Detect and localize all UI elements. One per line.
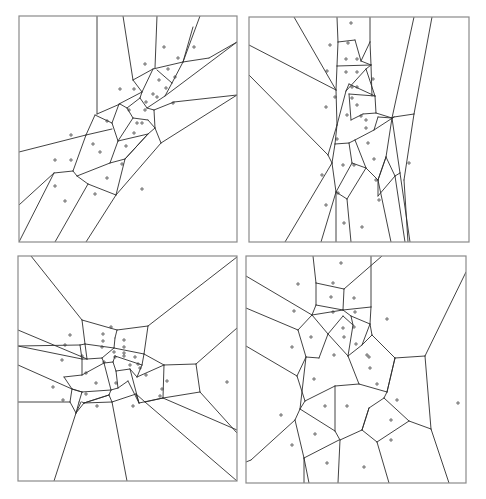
seed-plus-icon [355, 57, 359, 61]
seed-plus-icon [166, 67, 170, 71]
voronoi-edge [414, 17, 432, 114]
voronoi-edge [123, 16, 133, 80]
voronoi-edge [111, 388, 118, 390]
voronoi-edge [332, 163, 336, 192]
seed-plus-icon [128, 363, 132, 367]
seed-plus-icon [132, 131, 136, 135]
voronoi-edge [120, 104, 127, 108]
seed-plus-icon [124, 144, 128, 148]
seed-plus-icon [296, 282, 300, 286]
seed-plus-icon [69, 133, 73, 137]
voronoi-edges [249, 17, 432, 242]
seed-plus-icon [173, 75, 177, 79]
voronoi-edge [351, 316, 370, 324]
voronoi-edge [118, 134, 148, 141]
seed-plus-icon [136, 362, 140, 366]
voronoi-edge [312, 305, 316, 315]
voronoi-edge [359, 384, 387, 392]
seed-plus-icon [325, 461, 329, 465]
voronoi-edge [394, 114, 414, 117]
voronoi-edge [363, 113, 376, 114]
seed-plus-icon [364, 126, 368, 130]
seed-plus-icon [290, 443, 294, 447]
voronoi-edge [392, 118, 400, 173]
seed-plus-icon [140, 187, 144, 191]
voronoi-edge [337, 91, 346, 125]
seed-plus-icon [143, 62, 147, 66]
voronoi-edge [348, 345, 362, 356]
seed-plus-icon [389, 438, 393, 442]
voronoi-edge [72, 389, 82, 392]
seed-plus-icon [95, 404, 99, 408]
voronoi-edge [86, 115, 95, 135]
voronoi-edge [163, 398, 237, 430]
voronoi-edge [395, 173, 400, 176]
voronoi-edge [148, 120, 155, 128]
seed-plus-icon [122, 345, 126, 349]
voronoi-edge [64, 375, 82, 377]
voronoi-edge [148, 128, 155, 134]
voronoi-edge [172, 62, 183, 83]
voronoi-edge [378, 180, 391, 242]
voronoi-edge [154, 110, 155, 128]
voronoi-edge [295, 409, 300, 420]
voronoi-edge [142, 354, 144, 365]
voronoi-edge [55, 184, 88, 242]
voronoi-edge [370, 324, 372, 335]
voronoi-edge [164, 364, 196, 365]
voronoi-edge [300, 409, 335, 431]
seed-plus-icon [91, 142, 95, 146]
voronoi-edge [377, 421, 409, 442]
voronoi-panel-bottom-right [246, 256, 466, 483]
voronoi-edge [19, 173, 54, 205]
seed-plus-icon [313, 432, 317, 436]
voronoi-edge [366, 69, 375, 96]
voronoi-edge [77, 176, 88, 184]
seed-plus-icon [63, 343, 67, 347]
voronoi-edge [404, 180, 408, 242]
voronoi-edge [316, 305, 343, 310]
seed-plus-icon [366, 141, 370, 145]
voronoi-edge [115, 330, 117, 338]
voronoi-edge [409, 421, 431, 429]
voronoi-edge [304, 458, 309, 483]
voronoi-edge [377, 442, 389, 483]
voronoi-edge [362, 408, 369, 430]
voronoi-edge [386, 118, 392, 157]
seed-plus-icon [360, 225, 364, 229]
seed-plus-icon [94, 381, 98, 385]
voronoi-edge [312, 315, 328, 334]
voronoi-edge [112, 123, 118, 141]
voronoi-edges [246, 256, 466, 483]
voronoi-edge [18, 345, 80, 346]
seed-plus-icon [346, 41, 350, 45]
voronoi-edge [196, 364, 200, 392]
voronoi-edge [125, 134, 148, 159]
voronoi-edge [116, 371, 118, 388]
voronoi-edge [370, 307, 371, 324]
seed-points [279, 261, 460, 469]
seed-plus-icon [135, 121, 139, 125]
seed-plus-icon [176, 56, 180, 60]
panel-frame [249, 17, 469, 242]
voronoi-edge [336, 163, 352, 192]
voronoi-edge [305, 386, 335, 401]
voronoi-edge [328, 316, 343, 334]
voronoi-edge [85, 344, 114, 348]
seed-plus-icon [324, 203, 328, 207]
voronoi-edges [18, 256, 237, 481]
voronoi-edge [183, 58, 209, 62]
voronoi-edge [133, 118, 148, 120]
seed-plus-icon [165, 379, 169, 383]
voronoi-edge [338, 440, 340, 483]
voronoi-edge [148, 257, 237, 326]
seed-plus-icon [151, 92, 155, 96]
voronoi-edge [361, 42, 370, 61]
voronoi-edge [183, 27, 193, 62]
seed-plus-icon [372, 157, 376, 161]
voronoi-edge [119, 92, 142, 104]
seed-plus-icon [158, 394, 162, 398]
seed-plus-icon [355, 70, 359, 74]
seed-plus-icon [144, 100, 148, 104]
voronoi-edge [118, 118, 133, 141]
